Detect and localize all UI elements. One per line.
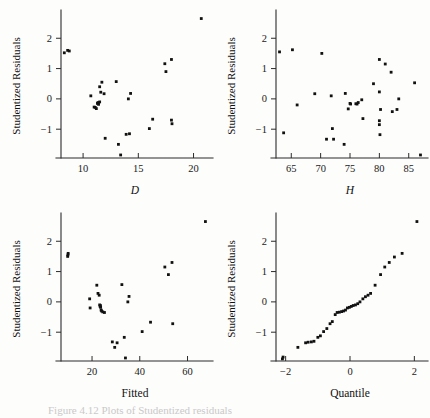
data-point — [364, 295, 367, 298]
data-point — [383, 266, 386, 269]
data-point — [282, 131, 285, 134]
x-tick-label: 2 — [412, 366, 417, 377]
data-point — [128, 132, 131, 135]
data-point — [304, 341, 307, 344]
x-axis-title: D — [130, 184, 140, 196]
scatter-panel-h: −10126570758085HStudentized Residuals — [215, 0, 430, 205]
x-tick-label: 10 — [78, 163, 89, 174]
data-point — [126, 300, 129, 303]
data-point — [310, 341, 313, 344]
data-point — [116, 341, 119, 344]
y-tick-label: 1 — [47, 63, 52, 74]
data-point — [67, 252, 70, 255]
x-tick-label: 15 — [133, 163, 144, 174]
data-point — [278, 50, 281, 53]
data-point — [331, 127, 334, 130]
data-point — [291, 48, 294, 51]
data-point — [296, 346, 299, 349]
data-point — [388, 261, 391, 264]
data-points — [278, 48, 422, 156]
figure-caption-strip: Figure 4.12 Plots of Studentized residua… — [0, 404, 430, 418]
data-point — [171, 122, 174, 125]
data-point — [374, 284, 377, 287]
data-point — [282, 356, 285, 359]
scatter-panel-quantile: −1012−202QuantileStudentized Residuals — [215, 203, 430, 408]
y-axis-title: Studentized Residuals — [225, 37, 237, 134]
plot-svg-panel-D: −1012101520DStudentized Residuals — [0, 0, 215, 205]
x-axis-title: Fitted — [122, 387, 149, 399]
data-point — [401, 252, 404, 255]
data-point — [88, 297, 91, 300]
data-point — [204, 220, 207, 223]
data-point — [378, 58, 381, 61]
data-point — [119, 154, 122, 157]
plot-svg-panel-Fitted: −1012204060FittedStudentized Residuals — [0, 203, 215, 408]
data-point — [98, 294, 101, 297]
data-point — [95, 284, 98, 287]
data-points — [63, 17, 203, 156]
data-point — [68, 50, 71, 53]
data-point — [313, 92, 316, 95]
data-point — [170, 119, 173, 122]
data-point — [89, 94, 92, 97]
x-tick-label: 65 — [286, 163, 297, 174]
data-point — [332, 138, 335, 141]
scatter-panel-d: −1012101520DStudentized Residuals — [0, 0, 215, 205]
x-tick-label: 0 — [347, 366, 352, 377]
x-tick-label: 80 — [374, 163, 385, 174]
data-point — [413, 81, 416, 84]
y-tick-label: 1 — [47, 266, 52, 277]
plot-svg-panel-H: −10126570758085HStudentized Residuals — [215, 0, 430, 205]
data-point — [125, 133, 128, 136]
data-point — [151, 118, 154, 121]
data-point — [416, 220, 419, 223]
y-tick-label: −1 — [41, 124, 52, 135]
data-point — [357, 101, 360, 104]
data-point — [104, 137, 107, 140]
data-point — [379, 133, 382, 136]
data-point — [163, 62, 166, 65]
data-point — [98, 101, 101, 104]
data-point — [359, 300, 362, 303]
data-points — [281, 220, 418, 360]
x-tick-label: −2 — [280, 366, 291, 377]
data-point — [200, 17, 203, 20]
data-points — [66, 220, 207, 359]
x-tick-label: 40 — [135, 366, 146, 377]
data-point — [103, 311, 106, 314]
figure-caption: Figure 4.12 Plots of Studentized residua… — [0, 404, 430, 417]
x-tick-label: 85 — [403, 163, 414, 174]
y-tick-label: 2 — [262, 33, 267, 44]
data-point — [378, 123, 381, 126]
data-point — [63, 51, 66, 54]
y-tick-label: −1 — [256, 124, 267, 135]
data-point — [369, 292, 372, 295]
data-point — [307, 341, 310, 344]
data-point — [165, 70, 168, 73]
data-point — [171, 261, 174, 264]
x-tick-label: 70 — [315, 163, 326, 174]
x-tick-label: 20 — [87, 366, 98, 377]
data-point — [331, 320, 334, 323]
data-point — [127, 97, 130, 100]
data-point — [97, 103, 100, 106]
y-axis-title: Studentized Residuals — [10, 37, 22, 134]
data-point — [296, 104, 299, 107]
data-point — [129, 92, 132, 95]
data-point — [325, 327, 328, 330]
data-point — [330, 94, 333, 97]
data-point — [103, 92, 106, 95]
data-point — [378, 119, 381, 122]
data-point — [393, 256, 396, 259]
data-point — [378, 91, 381, 94]
y-tick-label: −1 — [41, 327, 52, 338]
data-point — [344, 92, 347, 95]
figure-container: −1012101520DStudentized Residuals −10126… — [0, 0, 430, 418]
data-point — [379, 273, 382, 276]
data-point — [99, 306, 102, 309]
y-tick-label: −1 — [256, 327, 267, 338]
data-point — [419, 154, 422, 157]
y-axis-title: Studentized Residuals — [225, 240, 237, 337]
data-point — [320, 52, 323, 55]
y-tick-label: 2 — [47, 236, 52, 247]
